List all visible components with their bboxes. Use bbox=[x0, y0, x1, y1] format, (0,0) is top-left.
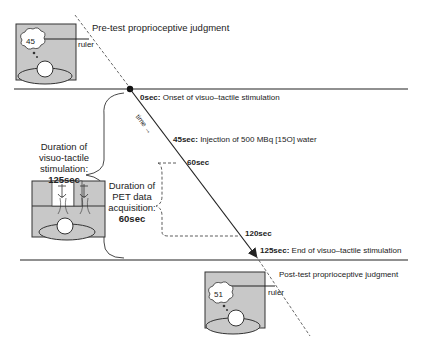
post-test-ruler-label: ruler bbox=[268, 288, 284, 297]
post-test-scene bbox=[205, 272, 275, 334]
event-0sec: 0sec: Onset of visuo–tactile stimulation bbox=[140, 93, 280, 102]
pre-test-value: 45 bbox=[26, 37, 35, 46]
event-125sec: 125sec: End of visuo–tactile stimulation bbox=[260, 246, 401, 255]
pet-duration: Duration of PET data acquisition: 60sec bbox=[104, 180, 160, 224]
pre-test-scene bbox=[16, 24, 89, 84]
post-test-title: Post-test proprioceptive judgment bbox=[279, 270, 398, 279]
stimulation-scene bbox=[32, 181, 105, 240]
event-60sec: 60sec bbox=[187, 158, 209, 167]
event-120sec: 120sec bbox=[245, 229, 272, 238]
post-test-value: 51 bbox=[214, 290, 223, 299]
pre-test-title: Pre-test proprioceptive judgment bbox=[92, 22, 229, 33]
stimulation-duration: Duration of visuo-tactile stimulation: 1… bbox=[22, 141, 106, 185]
event-45sec: 45sec: Injection of 500 MBq [15O] water bbox=[173, 135, 317, 144]
pre-test-ruler-label: ruler bbox=[78, 40, 94, 49]
time-arrow bbox=[130, 89, 256, 256]
pet-brace bbox=[156, 163, 240, 236]
